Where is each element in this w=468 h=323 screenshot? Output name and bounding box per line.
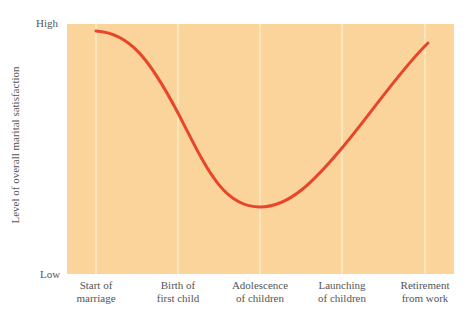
x-tick-line2: of children bbox=[297, 292, 387, 305]
y-tick-high: High bbox=[36, 17, 58, 29]
marital-satisfaction-chart: Level of overall marital satisfaction Hi… bbox=[0, 0, 468, 323]
x-tick-line2: first child bbox=[133, 292, 223, 305]
x-tick-retirement-from-work: Retirement from work bbox=[380, 279, 468, 305]
x-tick-adolescence-of-children: Adolescence of children bbox=[215, 279, 305, 305]
x-tick-line1: Birth of bbox=[133, 279, 223, 292]
x-tick-launching-of-children: Launching of children bbox=[297, 279, 387, 305]
x-tick-line1: Retirement bbox=[380, 279, 468, 292]
x-tick-line2: from work bbox=[380, 292, 468, 305]
x-tick-line1: Launching bbox=[297, 279, 387, 292]
x-tick-start-of-marriage: Start of marriage bbox=[51, 279, 141, 305]
x-tick-line1: Start of bbox=[51, 279, 141, 292]
y-axis-label: Level of overall marital satisfaction bbox=[9, 67, 21, 224]
x-tick-birth-of-first-child: Birth of first child bbox=[133, 279, 223, 305]
x-tick-line2: marriage bbox=[51, 292, 141, 305]
x-tick-line1: Adolescence bbox=[215, 279, 305, 292]
x-tick-line2: of children bbox=[215, 292, 305, 305]
plot-svg bbox=[0, 0, 468, 323]
